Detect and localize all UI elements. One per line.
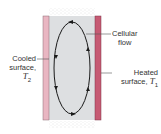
label-heated-line2: surface, T1 <box>104 77 158 90</box>
t1-subscript: 1 <box>155 82 158 88</box>
label-cooled: Cooled <box>2 54 36 63</box>
label-cooled-temp: T2 <box>2 72 31 85</box>
label-cooled-surface: Cooled surface, T2 <box>2 54 36 85</box>
label-cellular: Cellular <box>112 29 137 38</box>
top-stipple-boundary <box>49 8 95 15</box>
t2-subscript: 2 <box>28 77 31 83</box>
bottom-stipple-boundary <box>49 121 95 128</box>
label-heated-surface: Heated surface, T1 <box>104 68 158 90</box>
cooled-wall <box>43 16 49 120</box>
fluid-cavity <box>49 16 95 120</box>
label-flow: flow <box>112 38 137 47</box>
label-cellular-flow: Cellular flow <box>112 29 137 47</box>
heated-wall <box>95 16 101 120</box>
label-heated-surface-word: surface, <box>121 77 150 86</box>
label-cooled-surface-word: surface, <box>2 63 36 72</box>
